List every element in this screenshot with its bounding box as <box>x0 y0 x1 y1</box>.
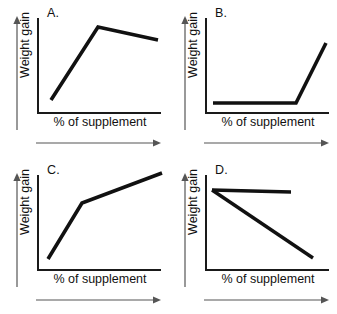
panel-a-data-line <box>51 27 158 100</box>
x-axis-arrow-icon <box>36 139 161 146</box>
panel-a-axes <box>38 18 161 113</box>
chart-panel-d: D. % of supplement Weight gain <box>168 157 336 314</box>
panel-b-x-axis-label: % of supplement <box>204 115 332 129</box>
panel-d-plateau-line <box>212 190 291 192</box>
panel-c-letter: C. <box>47 163 60 177</box>
panel-b-axes <box>206 18 329 113</box>
panel-b-data-line <box>213 43 326 103</box>
panel-c-x-axis-label: % of supplement <box>36 272 164 286</box>
x-axis-arrow-icon <box>204 139 329 146</box>
chart-panel-c: C. % of supplement Weight gain <box>0 157 168 314</box>
panel-b-y-axis-label: Weight gain <box>186 0 200 93</box>
panel-d-y-axis-label: Weight gain <box>186 154 200 250</box>
panel-c-data-line <box>48 173 162 259</box>
panel-d-decline-line <box>212 190 313 258</box>
panel-a-y-axis-label: Weight gain <box>18 0 32 93</box>
x-axis-arrow-icon <box>204 296 329 303</box>
panel-b-letter: B. <box>215 6 227 20</box>
panel-c-y-axis-label: Weight gain <box>18 154 32 250</box>
panel-a-letter: A. <box>47 6 59 20</box>
chart-panel-a: A. % of supplement Weight gain <box>0 0 168 157</box>
panel-a-x-axis-label: % of supplement <box>36 115 164 129</box>
chart-panel-b: B. % of supplement Weight gain <box>168 0 336 157</box>
x-axis-arrow-icon <box>36 296 161 303</box>
panel-d-letter: D. <box>215 163 228 177</box>
figure-container: A. % of supplement Weight gain B. % of s… <box>0 0 337 314</box>
panel-d-x-axis-label: % of supplement <box>204 272 332 286</box>
panel-c-axes <box>38 175 161 270</box>
